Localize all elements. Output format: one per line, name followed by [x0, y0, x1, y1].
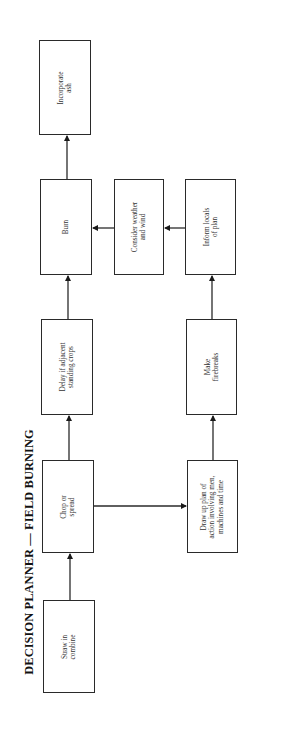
- node-label: Delay if adjacent standing crops: [59, 322, 76, 412]
- node-firebreaks: Make firebreaks: [186, 319, 237, 415]
- node-chop: Chop or spread: [42, 460, 94, 553]
- flowchart-diagram: Straw in combineChop or spreadDelay if a…: [0, 0, 296, 751]
- node-straw: Straw in combine: [43, 600, 95, 693]
- node-label: Straw in combine: [61, 602, 78, 692]
- node-label: Inform locals of plan: [202, 182, 219, 272]
- diagram-title: DECISION PLANNER — FIELD BURNING: [22, 429, 37, 675]
- node-delay: Delay if adjacent standing crops: [41, 319, 93, 415]
- node-drawup: Draw up plan of action involving men, ma…: [187, 460, 238, 553]
- node-label: Chop or spread: [60, 462, 77, 552]
- node-label: Incorporate ash: [57, 43, 74, 133]
- node-incorporate: Incorporate ash: [39, 40, 91, 135]
- node-label: Make firebreaks: [203, 322, 220, 412]
- node-label: Burn: [62, 182, 70, 272]
- node-label: Draw up plan of action involving men, ma…: [200, 462, 225, 552]
- node-inform: Inform locals of plan: [185, 179, 236, 275]
- node-burn: Burn: [40, 179, 92, 275]
- node-label: Consider weather and wind: [131, 182, 148, 272]
- node-weather: Consider weather and wind: [114, 179, 164, 275]
